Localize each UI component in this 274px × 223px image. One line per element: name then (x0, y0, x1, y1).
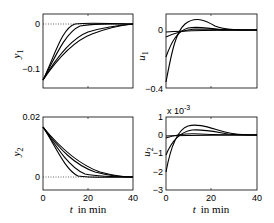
ytick-minus-3: −3 (153, 185, 163, 195)
xtick-0: 0 (40, 193, 45, 203)
ytick-0: 0 (158, 25, 163, 35)
ytick-1: 1 (158, 112, 163, 122)
ylabel-u1: u1 (135, 51, 150, 61)
scale-exponent-label: x 10-3 (167, 104, 190, 116)
ytick-0-02: 0.02 (22, 112, 40, 122)
xtick-20: 20 (206, 193, 216, 203)
xtick-0: 0 (163, 193, 168, 203)
u1-curves (166, 20, 257, 82)
panel-u1: 0 −0.4 u1 (135, 14, 257, 94)
y2-curves (43, 127, 133, 177)
ytick-minus-2: −2 (153, 167, 163, 177)
xlabel: tin min (70, 203, 107, 215)
y1-curves (43, 23, 133, 80)
ytick-0: 0 (158, 130, 163, 140)
u2-curves (166, 125, 257, 172)
xtick-40: 40 (252, 193, 262, 203)
ylabel-y2: y2 (10, 148, 25, 158)
svg-text:u1: u1 (135, 51, 150, 61)
ytick-minus-0-4: −0.4 (145, 84, 163, 94)
svg-text:y1: y1 (10, 50, 25, 60)
ytick-0: 0 (35, 172, 40, 182)
svg-text:y2: y2 (10, 148, 25, 158)
panel-y2: 0.02 0 0 20 40 tin min y2 (10, 112, 138, 215)
ylabel-y1: y1 (10, 50, 25, 60)
xtick-40: 40 (128, 193, 138, 203)
xlabel: tin min (193, 203, 230, 215)
panel-y1: 0 −0.1 y1 (10, 14, 133, 88)
ytick-minus-0-1: −0.1 (22, 64, 40, 74)
xtick-20: 20 (83, 193, 93, 203)
panel-u2: 1 0 −1 −2 −3 x 10-3 0 20 40 tin min u2 (140, 104, 262, 215)
figure: 0 −0.1 y1 0 −0.4 u1 0 (0, 0, 274, 223)
ytick-0: 0 (35, 19, 40, 29)
